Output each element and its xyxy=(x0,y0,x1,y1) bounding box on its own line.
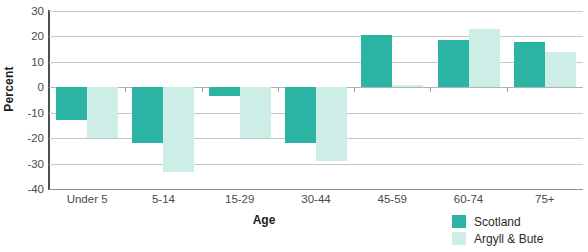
legend-swatch-scotland xyxy=(452,215,466,228)
bar-chart: Percent 3020100-10-20-30-40 Under 55-141… xyxy=(0,0,588,252)
y-tick-label: 10 xyxy=(0,56,44,68)
bar-scotland xyxy=(438,40,469,87)
bar-scotland xyxy=(132,87,163,143)
y-tick-label: -30 xyxy=(0,158,44,170)
bar-argyll-bute xyxy=(469,29,500,87)
legend-label: Argyll & Bute xyxy=(474,232,543,246)
bar-argyll-bute xyxy=(545,52,576,88)
bar-argyll-bute xyxy=(316,87,347,161)
y-tick-label: 0 xyxy=(0,81,44,93)
bar-argyll-bute xyxy=(87,87,118,138)
bar-argyll-bute xyxy=(163,87,194,172)
bar-group xyxy=(49,11,125,189)
legend-item: Argyll & Bute xyxy=(452,230,588,247)
chart-legend: ScotlandArgyll & Bute xyxy=(452,213,588,247)
legend-item: Scotland xyxy=(452,213,588,230)
y-axis-tick-labels: 3020100-10-20-30-40 xyxy=(0,11,44,189)
bar-group xyxy=(278,11,354,189)
y-tick-label: 30 xyxy=(0,5,44,17)
x-tick-label: 75+ xyxy=(500,193,588,205)
y-tick-label: 20 xyxy=(0,30,44,42)
bar-scotland xyxy=(361,35,392,87)
legend-swatch-argyll xyxy=(452,232,466,245)
bar-group xyxy=(507,11,583,189)
bar-argyll-bute xyxy=(240,87,271,138)
bar-scotland xyxy=(209,87,240,96)
gridline--40 xyxy=(49,189,583,190)
plot-area xyxy=(49,11,583,189)
bar-scotland xyxy=(285,87,316,143)
bar-group xyxy=(354,11,430,189)
x-axis-title-text: Age xyxy=(253,213,276,227)
bar-group xyxy=(202,11,278,189)
y-tick-label: -40 xyxy=(0,183,44,195)
bar-argyll-bute xyxy=(392,85,423,88)
legend-label: Scotland xyxy=(474,215,521,229)
bar-scotland xyxy=(56,87,87,120)
y-tick-label: -10 xyxy=(0,107,44,119)
bar-group xyxy=(125,11,201,189)
y-tick-label: -20 xyxy=(0,132,44,144)
bar-group xyxy=(430,11,506,189)
bar-scotland xyxy=(514,42,545,88)
